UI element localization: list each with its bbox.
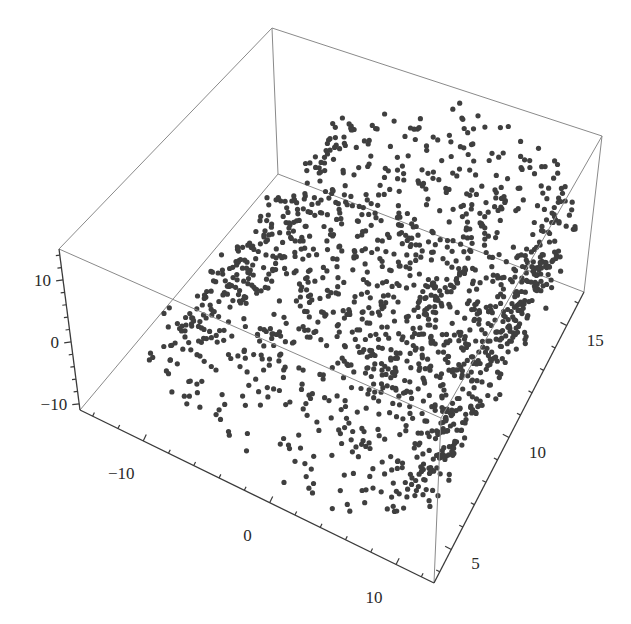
data-point xyxy=(147,357,152,362)
data-point xyxy=(538,261,543,266)
data-point xyxy=(441,429,446,434)
data-point xyxy=(220,292,225,297)
data-point xyxy=(328,227,333,232)
data-point xyxy=(493,304,498,309)
data-point xyxy=(216,270,221,275)
data-point xyxy=(336,291,341,296)
data-point xyxy=(472,385,477,390)
data-point xyxy=(439,158,444,163)
data-point xyxy=(367,138,372,143)
data-point xyxy=(514,326,519,331)
data-point xyxy=(549,259,554,264)
data-point xyxy=(325,288,330,293)
data-point xyxy=(388,356,393,361)
data-point xyxy=(551,176,556,181)
data-point xyxy=(416,484,421,489)
data-point xyxy=(308,396,313,401)
data-point xyxy=(388,454,393,459)
data-point xyxy=(447,472,452,477)
data-point xyxy=(221,338,226,343)
data-point xyxy=(460,386,465,391)
data-point xyxy=(363,371,368,376)
data-point xyxy=(389,495,394,500)
data-point xyxy=(487,338,492,343)
data-point xyxy=(404,358,409,363)
data-point xyxy=(314,419,319,424)
data-point xyxy=(271,312,276,317)
data-point xyxy=(318,337,323,342)
data-point xyxy=(217,407,222,412)
data-point xyxy=(475,113,480,118)
z-tick xyxy=(72,379,76,380)
data-point xyxy=(524,257,529,262)
data-point xyxy=(483,350,488,355)
data-point xyxy=(305,413,310,418)
y-tick xyxy=(482,480,486,482)
data-point xyxy=(406,314,411,319)
data-point xyxy=(308,268,313,273)
data-point xyxy=(487,158,492,163)
data-point xyxy=(462,316,467,321)
data-point xyxy=(546,272,551,277)
data-point xyxy=(379,325,384,330)
data-point xyxy=(380,238,385,243)
data-point xyxy=(471,158,476,163)
data-point xyxy=(489,151,494,156)
data-point xyxy=(421,477,426,482)
data-point xyxy=(294,268,299,273)
data-point xyxy=(218,417,223,422)
data-point xyxy=(202,293,207,298)
data-point xyxy=(471,278,476,283)
data-point xyxy=(408,365,413,370)
data-point xyxy=(462,126,467,131)
data-point xyxy=(495,329,500,334)
data-point xyxy=(495,230,500,235)
data-point xyxy=(281,214,286,219)
data-point xyxy=(223,278,228,283)
data-point xyxy=(505,307,510,312)
data-point xyxy=(469,202,474,207)
data-point xyxy=(328,232,333,237)
data-point xyxy=(362,500,367,505)
y-tick xyxy=(560,322,566,325)
data-point xyxy=(556,248,561,253)
data-point xyxy=(440,448,445,453)
data-point xyxy=(350,449,355,454)
data-point xyxy=(377,256,382,261)
data-point xyxy=(511,245,516,250)
data-point xyxy=(357,204,362,209)
data-point xyxy=(258,214,263,219)
data-point xyxy=(406,153,411,158)
data-point xyxy=(367,161,372,166)
data-point xyxy=(488,307,493,312)
data-point xyxy=(469,235,474,240)
z-tick xyxy=(56,255,60,256)
data-point xyxy=(292,250,297,255)
data-point xyxy=(388,144,393,149)
data-point xyxy=(521,197,526,202)
data-point xyxy=(407,379,412,384)
data-point xyxy=(342,192,347,197)
data-point xyxy=(451,422,456,427)
data-point xyxy=(240,266,245,271)
data-point xyxy=(513,332,518,337)
data-point xyxy=(407,411,412,416)
data-point xyxy=(269,279,274,284)
data-point xyxy=(289,198,294,203)
data-point xyxy=(538,254,543,259)
data-point xyxy=(282,254,287,259)
data-point xyxy=(419,431,424,436)
data-point xyxy=(439,303,444,308)
data-point xyxy=(262,327,267,332)
data-point xyxy=(342,141,347,146)
data-point xyxy=(243,356,248,361)
data-point xyxy=(304,287,309,292)
data-point xyxy=(353,337,358,342)
data-point xyxy=(429,229,434,234)
data-point xyxy=(265,394,270,399)
data-point xyxy=(417,125,422,130)
data-point xyxy=(375,246,380,251)
data-point xyxy=(383,372,388,377)
data-point xyxy=(544,217,549,222)
data-point xyxy=(351,254,356,259)
